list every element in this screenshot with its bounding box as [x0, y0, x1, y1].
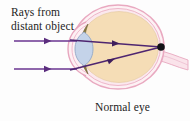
normal-eye-caption: Normal eye [95, 101, 150, 115]
rays-label-line-1: Rays from [11, 6, 60, 18]
lower-incoming-ray-arrowhead [44, 66, 52, 72]
retina-focal-point [157, 43, 165, 51]
rays-label-line-2: distant object [11, 20, 74, 34]
eye-ray-diagram-figure: Rays from distant object Normal eye [0, 0, 190, 121]
rays-from-distant-object-label: Rays from distant object [11, 6, 74, 33]
upper-incoming-ray-arrowhead [44, 38, 52, 44]
